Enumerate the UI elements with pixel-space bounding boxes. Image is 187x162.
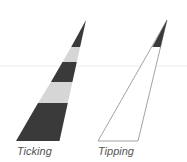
diagram-canvas (0, 0, 187, 162)
ticking-label: Ticking (17, 145, 52, 157)
ticking-band-1 (71, 20, 86, 47)
ticking-wedge (16, 20, 86, 141)
ticking-band-4 (38, 82, 72, 103)
ticking-band-2 (63, 47, 81, 62)
tipping-label: Tipping (98, 145, 134, 157)
tipping-wedge (98, 20, 167, 141)
tipping-outline (98, 20, 167, 141)
ticking-band-5 (16, 103, 68, 141)
ticking-band-3 (51, 62, 77, 82)
